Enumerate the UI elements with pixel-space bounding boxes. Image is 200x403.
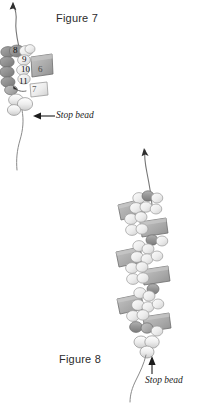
figure-7-stopbead-arrow <box>33 112 55 119</box>
figure-7-stopbead-label: Stop bead <box>56 110 94 120</box>
figure-8-bead-rope <box>116 191 171 358</box>
figure-7-caption: Figure 7 <box>56 12 98 24</box>
figure-7-stop-bead <box>7 94 32 115</box>
figure-8-seed-light-5 <box>132 288 164 313</box>
figure-8-stopbead-label: Stop bead <box>145 375 183 385</box>
bead-label-6: 6 <box>38 64 43 74</box>
diagram-page: 8 9 10 11 6 7 Figure 7 Figure 8 Stop bea… <box>0 0 200 403</box>
bead-dark-left-5 <box>5 85 18 95</box>
figure-7-thread-top <box>10 2 19 47</box>
bead-label-11: 11 <box>19 76 28 86</box>
bead-label-8: 8 <box>13 45 18 55</box>
figure-8-thread-tail <box>130 355 146 402</box>
figure-8-stopbead-arrow <box>148 356 155 374</box>
figure-8-caption: Figure 8 <box>59 353 101 365</box>
bead-label-7: 7 <box>32 84 37 94</box>
figure-7-illustration <box>0 0 200 403</box>
bead-label-9: 9 <box>22 54 27 64</box>
figure-7-thread-tail <box>17 110 23 170</box>
bead-label-10: 10 <box>21 64 30 74</box>
figure-8-stop-bead <box>134 336 159 358</box>
bead-mid-right-1 <box>25 45 35 54</box>
figure-8-seed-light-1 <box>130 191 163 214</box>
bead-dark-left-3 <box>0 67 14 78</box>
bead-dark-left-2 <box>0 57 14 68</box>
